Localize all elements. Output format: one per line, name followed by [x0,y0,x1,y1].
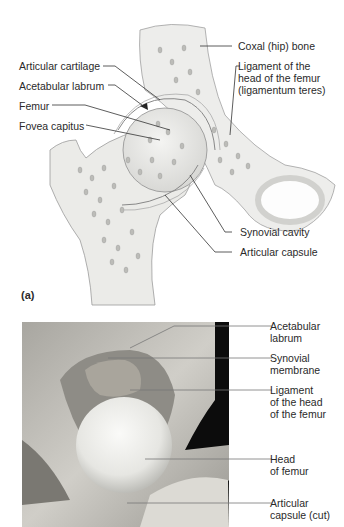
label-synovial-cavity: Synovial cavity [240,226,309,238]
label-b-ligament-head-femur: Ligament of the head of the femur [270,384,326,420]
label-line: of the head [270,396,326,408]
label-coxal-bone: Coxal (hip) bone [238,40,315,52]
leader-lines-b [108,326,272,503]
label-b-acetabular-labrum: Acetabular labrum [270,320,320,344]
label-articular-capsule: Articular capsule [240,246,318,258]
label-line: of the femur [270,408,326,420]
label-femur: Femur [19,100,49,112]
label-line: Ligament [270,384,326,396]
panel-letter-a: (a) [21,289,34,301]
label-b-articular-capsule-cut: Articular capsule (cut) [270,497,330,521]
label-fovea-capitus: Fovea capitus [19,120,84,132]
label-line: Head [270,453,309,465]
label-line: labrum [270,332,320,344]
label-line: head of the femur [238,72,326,84]
label-line: membrane [270,364,320,376]
label-line: of femur [270,465,309,477]
label-line: Synovial [270,352,320,364]
label-line: Ligament of the [238,60,326,72]
femoral-head-shape [123,108,207,192]
label-line: Articular [270,497,330,509]
label-acetabular-labrum: Acetabular labrum [19,80,104,92]
label-articular-cartilage: Articular cartilage [19,60,100,72]
label-line: capsule (cut) [270,509,330,521]
label-b-synovial-membrane: Synovial membrane [270,352,320,376]
label-ligament-head-femur: Ligament of the head of the femur (ligam… [238,60,326,96]
obturator-foramen [258,178,322,222]
label-b-head-of-femur: Head of femur [270,453,309,477]
femoral-head-photo [76,397,172,493]
label-line: (ligamentum teres) [238,84,326,96]
label-line: Acetabular [270,320,320,332]
